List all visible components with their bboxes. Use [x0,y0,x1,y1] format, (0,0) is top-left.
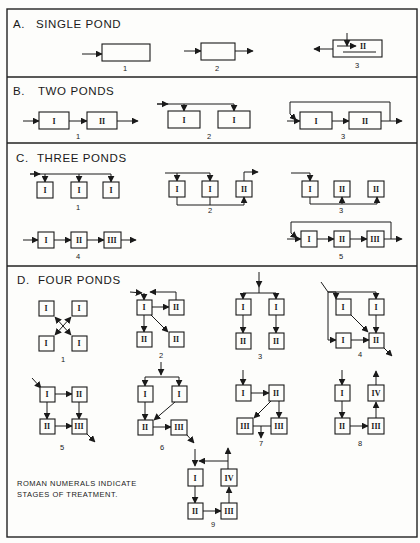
section-d-four-ponds: D. FOUR PONDS I I I I 1 I II [17,272,392,529]
pond-stage: I [77,339,80,348]
pond-configuration-diagram: A. SINGLE POND 1 2 II 3 B. TWO PONDS [0,0,420,543]
pond-stage: III [274,422,283,431]
pond-stage: II [173,335,179,344]
pond-stage: I [52,117,55,126]
outflow-arrow-icon [244,172,258,181]
diagram-c2: I I II 2 [165,172,258,215]
pond-stage: I [175,185,178,194]
section-d-letter: D. [17,274,30,286]
pond-stage: I [314,117,317,126]
diagram-c1: I I I 1 [30,174,119,212]
inflow-arrow-icon [130,292,142,293]
pond-stage: III [107,236,116,245]
feed-arrow-icon [328,292,376,299]
pond-stage: I [109,186,112,195]
section-d-title: FOUR PONDS [38,274,121,286]
pond-stage: II [141,335,147,344]
flow-arrow-icon [254,401,271,418]
flow-arrow-icon [351,315,368,332]
diagram-number: 2 [159,351,163,360]
pond-stage: I [43,186,46,195]
pond-stage: II [241,185,247,194]
pond-stage: III [371,422,380,431]
diagram-number: 8 [358,439,362,448]
pond-stage: I [44,304,47,313]
pond-stage: II [373,185,379,194]
diagram-number: 5 [60,443,64,452]
feed-arrow-icon [63,326,71,335]
pond-stage: III [240,422,249,431]
section-a-title: SINGLE POND [36,18,121,30]
diagram-b2: I I 2 [157,104,250,141]
diagram-b1: I II 1 [23,112,138,141]
outflow-arrow-icon [87,434,95,442]
diagram-d9: I IV II III 9 [188,448,237,529]
pond-stage: II [360,42,366,51]
feed-arrow-icon [55,317,63,326]
pond-stage: I [142,303,145,312]
pond-stage: II [362,117,368,126]
pond-stage: II [76,236,82,245]
pond-stage: II [273,389,279,398]
pond-stage: II [240,337,246,346]
diagram-number: 1 [76,132,80,141]
diagram-number: 9 [211,520,215,529]
section-b-title: TWO PONDS [38,85,114,97]
diagram-a2: 2 [184,43,253,73]
pond-stage: I [77,304,80,313]
section-b-letter: B. [13,85,25,97]
diagram-c5: I II III 5 [287,222,402,261]
pond-stage: III [370,235,379,244]
pond-stage: I [341,303,344,312]
pond-stage: II [99,117,105,126]
pond-stage: I [193,474,196,483]
flow-arrow-icon [154,402,175,420]
pond-stage: II [192,507,198,516]
diagram-number: 4 [358,350,362,359]
pond-stage: II [339,235,345,244]
diagram-number: 3 [339,206,343,215]
pond-stage: II [339,185,345,194]
diagram-d6: I I II III 6 [138,362,194,452]
pond-box [102,44,150,61]
section-c-title: THREE PONDS [37,152,127,164]
diagram-d4: I I I II 4 [321,282,392,359]
pond-stage: IV [225,474,234,483]
flow-arrow-icon [151,315,168,332]
pond-stage: I [182,116,185,125]
feed-arrow-icon [63,317,71,326]
feed-arrow-icon [328,292,336,299]
diagram-number: 3 [258,352,262,361]
pond-stage: I [44,236,47,245]
pond-stage: II [44,422,50,431]
pond-stage: I [308,185,311,194]
legend-note-line-1: ROMAN NUMERALS INDICATE [17,479,137,488]
pond-stage: I [340,389,343,398]
section-c-three-ponds: C. THREE PONDS I I I 1 I I II [16,152,402,261]
outflow-arrow-icon [187,435,194,443]
diagram-number: 2 [208,206,212,215]
section-a-single-pond: A. SINGLE POND 1 2 II 3 [13,18,382,73]
pond-stage: I [274,303,277,312]
diagram-number: 3 [355,61,359,70]
pond-stage: I [77,186,80,195]
pond-stage: II [373,336,379,345]
diagram-number: 6 [160,443,164,452]
legend-note-line-2: STAGES OF TREATMENT. [17,490,118,499]
pond-box [201,43,235,60]
diagram-number: 3 [341,132,345,141]
section-a-letter: A. [13,18,25,30]
pond-stage: II [273,337,279,346]
diagram-number: 2 [215,64,219,73]
pond-stage: II [142,423,148,432]
diagram-d8: I IV II III 8 [335,370,384,448]
diagram-b3: I II 3 [287,102,402,141]
section-c-letter: C. [16,152,29,164]
diagram-number: 2 [207,132,211,141]
pond-stage: I [241,389,244,398]
collector-line [310,197,377,204]
diagram-a1: 1 [82,44,150,73]
pond-stage: II [173,303,179,312]
diagram-d1: I I I I 1 [39,301,87,364]
pond-stage: I [374,303,377,312]
